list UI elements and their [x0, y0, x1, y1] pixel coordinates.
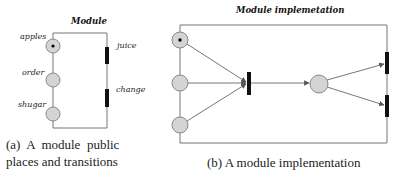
- place-apples[interactable]: [46, 39, 60, 53]
- impl-transition-internal[interactable]: [247, 72, 251, 95]
- impl-place-shugar[interactable]: [172, 117, 188, 133]
- arc-place-to-transition-juice: [327, 64, 384, 80]
- token-icon: [178, 38, 181, 41]
- figure-b: Module implemetation (b) A module implem…: [172, 5, 389, 170]
- figure-b-caption: (b) A module implementation: [207, 155, 361, 170]
- figure-a-caption-line2: places and transitions: [6, 154, 118, 169]
- figure-a-caption-line1: (a) A module public: [6, 137, 120, 152]
- implementation-frame: [180, 25, 387, 143]
- impl-place-internal[interactable]: [310, 75, 328, 93]
- place-label-apples: apples: [20, 32, 46, 41]
- module-frame: [53, 33, 107, 128]
- impl-transition-juice[interactable]: [385, 52, 389, 74]
- arc-place3-to-transition: [187, 84, 246, 121]
- token-icon: [51, 44, 54, 47]
- figure-a-title: Module: [70, 16, 107, 26]
- place-order[interactable]: [46, 73, 60, 87]
- place-shugar[interactable]: [46, 107, 60, 121]
- figure-b-title: Module implemetation: [235, 5, 344, 15]
- transition-label-change: change: [116, 85, 146, 94]
- transition-change[interactable]: [105, 89, 109, 107]
- figure-a: Module apples order shugar juice change …: [6, 16, 146, 169]
- transition-label-juice: juice: [115, 41, 137, 50]
- place-label-order: order: [22, 68, 45, 77]
- impl-place-order[interactable]: [172, 75, 188, 91]
- transition-juice[interactable]: [105, 47, 109, 64]
- impl-transition-change[interactable]: [385, 95, 389, 117]
- place-label-shugar: shugar: [18, 100, 47, 109]
- arc-place1-to-transition: [187, 44, 246, 82]
- figure-canvas: Module apples order shugar juice change …: [0, 0, 409, 183]
- arc-place-to-transition-change: [327, 87, 384, 105]
- impl-place-apples[interactable]: [172, 32, 188, 48]
